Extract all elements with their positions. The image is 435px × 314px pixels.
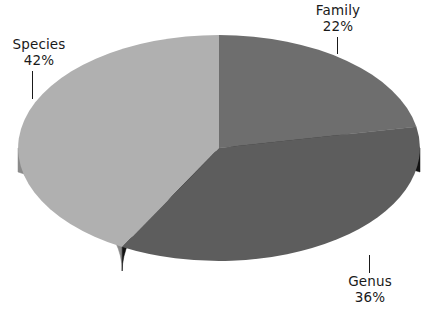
genus-label-name: Genus <box>334 274 406 290</box>
genus-leader-line <box>369 255 370 273</box>
species-label-name: Species <box>0 37 78 53</box>
family-label-name: Family <box>302 3 374 19</box>
family-label-percent: 22% <box>302 19 374 35</box>
family-leader-line <box>337 37 338 54</box>
genus-slice-label: Genus 36% <box>334 274 406 305</box>
pie-chart: Family 22% Species 42% Genus 36% <box>0 0 435 314</box>
species-slice-label: Species 42% <box>0 37 78 68</box>
species-label-percent: 42% <box>0 53 78 69</box>
genus-label-percent: 36% <box>334 290 406 306</box>
species-leader-line <box>32 71 33 99</box>
family-slice-label: Family 22% <box>302 3 374 34</box>
